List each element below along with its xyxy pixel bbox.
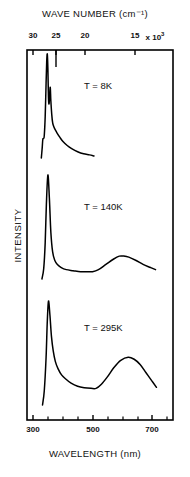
spectra-curves [41, 54, 156, 405]
axis-ticks [33, 50, 167, 420]
plot-frame [27, 50, 173, 420]
spectrum-curve [41, 54, 94, 158]
plot-canvas [0, 0, 190, 477]
spectrum-curve [43, 301, 157, 405]
spectroscopy-figure: WAVE NUMBER (cm⁻¹) WAVELENGTH (nm) INTEN… [0, 0, 190, 477]
spectrum-curve [42, 175, 156, 279]
